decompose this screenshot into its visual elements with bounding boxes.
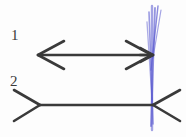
line-2-left-fin-upper: [14, 90, 40, 105]
muller-lyer-figure: [0, 0, 186, 137]
line-2-right-fin-upper: [153, 90, 180, 105]
figure-canvas: 1 2: [0, 0, 186, 137]
line-1-left-head-upper: [38, 41, 64, 55]
line-1-label: 1: [11, 28, 19, 43]
fin-line-2: [14, 90, 180, 121]
line-2-left-fin-lower: [14, 105, 40, 121]
line-2-right-fin-lower: [153, 105, 180, 121]
arrow-line-1: [38, 41, 152, 69]
blue-vertical-reference-line: [147, 6, 161, 130]
line-1-left-head-lower: [38, 55, 64, 69]
line-2-label: 2: [10, 74, 18, 89]
